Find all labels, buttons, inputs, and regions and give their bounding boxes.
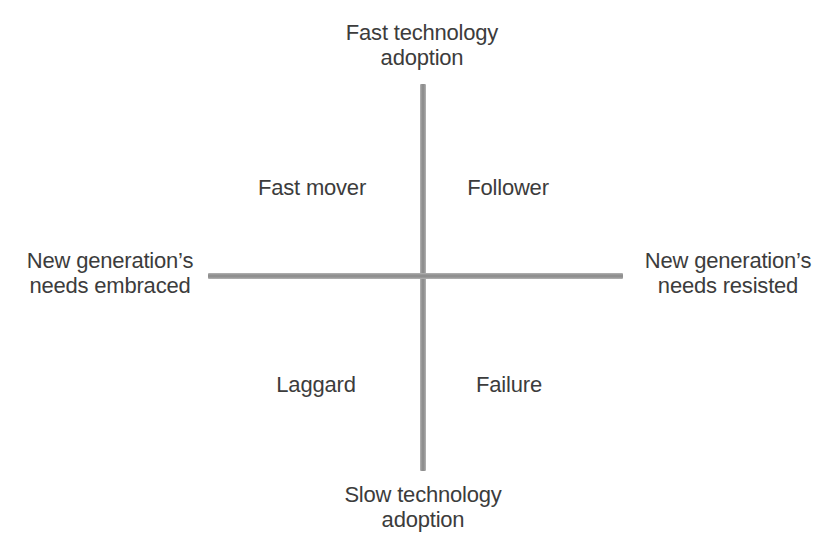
axis-label-left-line1: New generation’s <box>27 248 193 273</box>
quadrant-label-failure: Failure <box>476 372 542 397</box>
axis-label-right-line2: needs resisted <box>645 273 811 298</box>
axis-label-top-line2: adoption <box>346 45 498 70</box>
axis-label-top: Fast technology adoption <box>346 20 498 70</box>
axis-label-right-line1: New generation’s <box>645 248 811 273</box>
axis-label-left-line2: needs embraced <box>27 273 193 298</box>
axis-label-bottom: Slow technology adoption <box>344 482 501 532</box>
technology-adoption-quadrant-diagram: Fast technology adoption Slow technology… <box>0 0 825 549</box>
axis-label-top-line1: Fast technology <box>346 20 498 45</box>
horizontal-axis-line <box>208 273 623 279</box>
quadrant-label-fast-mover: Fast mover <box>258 175 366 200</box>
axis-label-right: New generation’s needs resisted <box>645 248 811 298</box>
quadrant-label-laggard: Laggard <box>276 372 355 397</box>
axis-label-left: New generation’s needs embraced <box>27 248 193 298</box>
axis-label-bottom-line1: Slow technology <box>344 482 501 507</box>
quadrant-label-follower: Follower <box>467 175 549 200</box>
axis-label-bottom-line2: adoption <box>344 507 501 532</box>
